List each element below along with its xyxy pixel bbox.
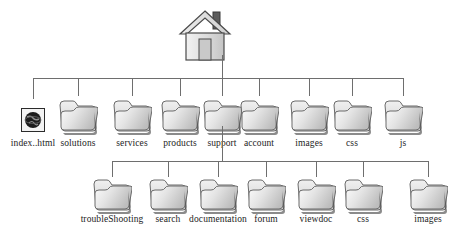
folder-icon-wrap bbox=[396, 172, 452, 214]
folder-icon bbox=[148, 177, 188, 214]
label-js: js bbox=[371, 138, 435, 149]
node-label: css bbox=[331, 214, 395, 225]
node-css-l2[interactable] bbox=[331, 172, 395, 214]
label-images-l2: images bbox=[396, 214, 452, 225]
folder-icon bbox=[58, 98, 98, 135]
house-icon bbox=[177, 6, 233, 64]
folder-icon bbox=[198, 177, 238, 214]
node-root-home[interactable] bbox=[165, 2, 245, 64]
folder-icon bbox=[408, 177, 448, 214]
connector-root-trunk bbox=[222, 55, 223, 78]
folder-icon-wrap bbox=[80, 172, 144, 214]
connector-support-trunk bbox=[222, 126, 223, 161]
folder-icon bbox=[296, 177, 336, 214]
folder-icon-wrap bbox=[371, 93, 435, 135]
folder-icon bbox=[246, 177, 286, 214]
node-js[interactable] bbox=[371, 93, 435, 135]
sitemap-diagram: index..html solutions services products … bbox=[0, 0, 452, 243]
connector-level1-bus bbox=[33, 78, 404, 79]
folder-icon bbox=[332, 98, 372, 135]
folder-icon bbox=[343, 177, 383, 214]
globe-frame bbox=[21, 108, 45, 132]
folder-icon bbox=[92, 177, 132, 214]
folder-icon bbox=[239, 98, 279, 135]
label-troubleshooting: troubleShooting bbox=[80, 214, 144, 225]
folder-icon bbox=[112, 98, 152, 135]
node-label: images bbox=[396, 214, 452, 225]
node-label: troubleShooting bbox=[80, 214, 144, 225]
connector-level2-bus bbox=[112, 161, 429, 162]
node-images-l2[interactable] bbox=[396, 172, 452, 214]
node-troubleshooting[interactable] bbox=[80, 172, 144, 214]
house-icon-wrap bbox=[165, 2, 245, 64]
globe-icon bbox=[24, 111, 42, 129]
node-label: js bbox=[371, 138, 435, 149]
folder-icon-wrap bbox=[331, 172, 395, 214]
folder-icon bbox=[383, 98, 423, 135]
label-css-l2: css bbox=[331, 214, 395, 225]
